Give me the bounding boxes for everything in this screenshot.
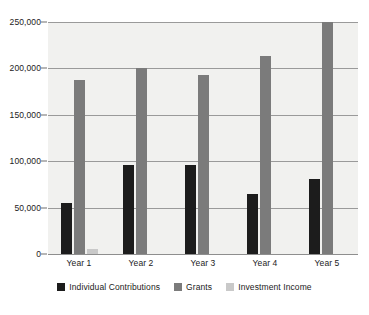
y-axis-tick-label: 50,000 — [14, 203, 48, 213]
y-axis-tick-label: 100,000 — [10, 156, 48, 166]
x-axis-tick-label: Year 2 — [110, 258, 172, 268]
y-axis-tick-label: 0 — [36, 249, 48, 259]
legend-item[interactable]: Grants — [174, 282, 212, 292]
legend-swatch-icon — [57, 283, 65, 291]
x-axis-tick-label: Year 1 — [48, 258, 110, 268]
legend-swatch-icon — [226, 283, 234, 291]
bar-group — [48, 22, 110, 254]
bar — [247, 194, 258, 254]
bar — [61, 203, 72, 254]
bar — [87, 249, 98, 254]
y-axis-tick-label: 150,000 — [10, 110, 48, 120]
bar — [136, 68, 147, 254]
x-axis-tick-label: Year 3 — [172, 258, 234, 268]
bar — [260, 56, 271, 254]
legend-item[interactable]: Individual Contributions — [57, 282, 160, 292]
x-axis-tick-label: Year 4 — [234, 258, 296, 268]
bar — [322, 22, 333, 254]
y-axis-tick-label: 200,000 — [10, 63, 48, 73]
legend-swatch-icon — [174, 283, 182, 291]
legend-item[interactable]: Investment Income — [226, 282, 312, 292]
bar-group — [296, 22, 358, 254]
bar-group — [234, 22, 296, 254]
legend-label: Individual Contributions — [69, 282, 160, 292]
bar-groups — [48, 22, 358, 254]
chart-legend: Individual ContributionsGrantsInvestment… — [0, 282, 369, 292]
plot-area: 050,000100,000150,000200,000250,000 — [48, 22, 358, 254]
bar — [309, 179, 320, 254]
bar — [198, 75, 209, 254]
bar-chart: 050,000100,000150,000200,000250,000 Year… — [0, 0, 369, 315]
bar — [74, 80, 85, 254]
bar-group — [172, 22, 234, 254]
y-axis-tick-label: 250,000 — [10, 17, 48, 27]
bar — [123, 165, 134, 254]
legend-label: Grants — [186, 282, 212, 292]
gridline — [48, 254, 358, 255]
bar-group — [110, 22, 172, 254]
x-axis-labels: Year 1Year 2Year 3Year 4Year 5 — [48, 258, 358, 268]
x-axis-tick-label: Year 5 — [296, 258, 358, 268]
legend-label: Investment Income — [238, 282, 312, 292]
bar — [185, 165, 196, 254]
